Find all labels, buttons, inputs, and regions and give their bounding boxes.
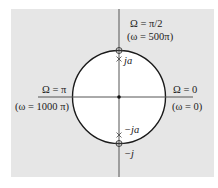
label-left-omega: (ω = 1000 π) bbox=[15, 101, 70, 113]
z-plane-diagram: Ω = π/2 (ω = 500π) ja Ω = π (ω = 1000 π)… bbox=[0, 0, 218, 188]
label-left-frequency: Ω = π bbox=[42, 84, 67, 95]
origin-dot bbox=[117, 95, 121, 99]
label-zero-minus-j: −j bbox=[124, 148, 134, 159]
label-right-frequency: Ω = 0 bbox=[173, 84, 197, 95]
label-pole-ja: ja bbox=[122, 55, 132, 66]
label-top-omega: (ω = 500π) bbox=[127, 31, 174, 43]
label-pole-minus-ja: −ja bbox=[124, 124, 139, 135]
label-top-frequency: Ω = π/2 bbox=[130, 18, 162, 29]
label-right-omega: (ω = 0) bbox=[172, 101, 203, 113]
